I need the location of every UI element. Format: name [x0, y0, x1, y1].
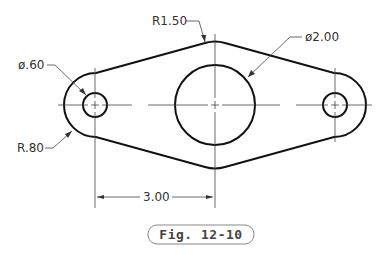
technical-drawing: R1.50 ø2.00 ø.60 R.80 3.00 Fig. 12-10 [0, 0, 386, 255]
dim-hole-spacing: 3.00 [143, 190, 170, 204]
dim-top-radius: R1.50 [152, 14, 187, 28]
dim-large-diameter: ø2.00 [305, 30, 339, 44]
dim-end-radius: R.80 [17, 141, 44, 155]
center-lines [58, 34, 372, 208]
figure-label: Fig. 12-10 [148, 225, 254, 244]
leader-lines [45, 0, 302, 197]
figure-label-text: Fig. 12-10 [159, 227, 242, 242]
dim-small-diameter: ø.60 [18, 58, 44, 72]
